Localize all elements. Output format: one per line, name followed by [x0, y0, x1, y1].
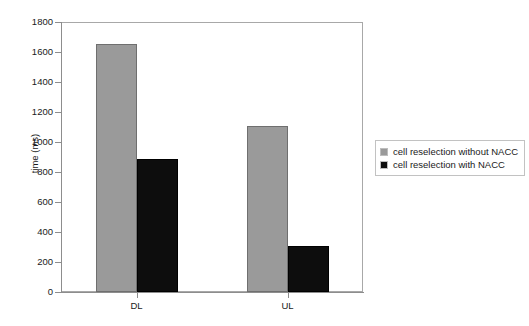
y-axis-tick-label: 800 [7, 167, 53, 177]
bar-dl-series-1 [137, 159, 178, 293]
x-axis-line [61, 292, 364, 293]
x-axis-tick [288, 292, 289, 298]
y-axis-tick-label: 1000 [7, 137, 53, 147]
y-axis-title: time (ms) [29, 114, 40, 194]
y-axis-tick-label: 200 [7, 257, 53, 267]
x-axis-tick-label: UL [248, 300, 328, 311]
bar-dl-series-0 [96, 44, 137, 292]
black-square-icon [380, 161, 388, 169]
legend-item: cell reselection with NACC [380, 158, 518, 171]
legend-item-label: cell reselection with NACC [393, 159, 505, 170]
y-axis-tick-label: 600 [7, 197, 53, 207]
x-axis-tick-label: DL [97, 300, 177, 311]
bar-ul-series-1 [288, 246, 329, 293]
gray-square-icon [380, 148, 388, 156]
y-axis-tick-label: 1400 [7, 77, 53, 87]
bar-ul-series-0 [247, 126, 288, 293]
y-axis-tick-label: 1600 [7, 47, 53, 57]
bar-chart: time (ms) 020040060080010001200140016001… [0, 0, 529, 326]
legend-item-label: cell reselection without NACC [393, 146, 518, 157]
x-axis-tick [137, 292, 138, 298]
y-axis-tick-label: 1200 [7, 107, 53, 117]
legend-item: cell reselection without NACC [380, 145, 518, 158]
y-axis-line [61, 22, 62, 293]
y-axis-tick-label: 1800 [7, 17, 53, 27]
legend: cell reselection without NACC cell resel… [375, 140, 525, 176]
y-axis-tick-label: 400 [7, 227, 53, 237]
y-axis-tick-label: 0 [7, 287, 53, 297]
